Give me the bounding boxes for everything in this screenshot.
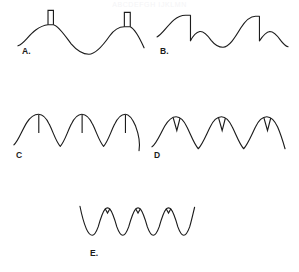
small-notch-e-2 (136, 209, 141, 213)
figure-canvas: ABCDEFGH IJKLMN A. B. C (0, 0, 299, 272)
wave-curve-c (14, 114, 140, 150)
wave-curve-b-tail (259, 31, 288, 46)
panel-label-c: C (16, 150, 22, 160)
panel-label-d: D (154, 150, 160, 160)
small-notch-e-3 (166, 209, 171, 213)
small-notch-e-1 (105, 209, 110, 213)
wave-curve-a (18, 25, 144, 54)
v-notch-d-3 (264, 118, 271, 131)
wave-curve-b (157, 15, 191, 37)
waveform-panel-b (155, 6, 287, 46)
waveform-svg-c (12, 108, 142, 156)
rect-spike-a-2 (124, 12, 130, 26)
panel-label-b: B. (160, 46, 169, 56)
waveform-svg-d (150, 108, 288, 156)
v-notch-d-1 (173, 118, 180, 131)
v-notch-d-2 (219, 118, 226, 131)
waveform-svg-b (155, 6, 291, 56)
waveform-svg-e (78, 200, 200, 244)
panel-label-a: A. (22, 46, 31, 56)
waveform-panel-c (12, 108, 136, 150)
panel-label-e: E. (90, 248, 98, 258)
rect-spike-a-1 (48, 10, 53, 24)
waveform-panel-a (16, 6, 144, 46)
waveform-panel-e (78, 200, 196, 242)
waveform-panel-d (150, 108, 284, 150)
waveform-svg-a (16, 6, 148, 62)
wave-curve-b-mid (190, 16, 259, 47)
